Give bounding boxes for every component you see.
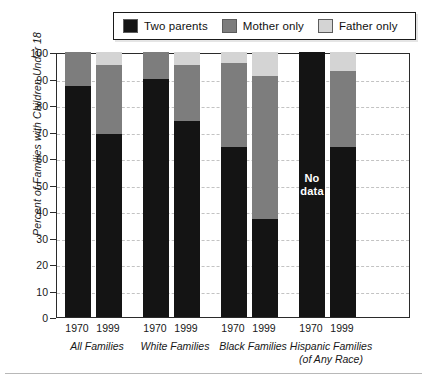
y-tick-mark: [50, 133, 56, 134]
x-tick-year: 1999: [96, 322, 119, 334]
bar-segment: [330, 71, 356, 148]
y-tick-mark: [50, 265, 56, 266]
bottom-divider: [5, 373, 422, 374]
bar-segment: [221, 63, 247, 148]
y-tick-mark: [50, 53, 56, 54]
x-tick-year: 1999: [252, 322, 275, 334]
bar-segment: [330, 52, 356, 71]
bar-segment: [174, 65, 200, 121]
x-tick-year: 1970: [65, 322, 88, 334]
bar-segment: [65, 52, 91, 86]
bar-segment: [252, 76, 278, 219]
legend-swatch-two-parents: [123, 19, 138, 33]
y-tick-mark: [50, 212, 56, 213]
bar-segment: [174, 52, 200, 65]
bar-segment: [221, 52, 247, 63]
x-group-label: Black Families: [219, 340, 287, 353]
bar-segment: [96, 134, 122, 317]
legend-label: Two parents: [144, 20, 208, 32]
bar-segment: [299, 52, 325, 317]
y-tick-mark: [50, 159, 56, 160]
y-tick-mark: [50, 318, 56, 319]
x-tick-year: 1970: [299, 322, 322, 334]
x-tick-year: 1999: [174, 322, 197, 334]
stacked-bar: [143, 52, 169, 317]
stacked-bar: [65, 52, 91, 317]
legend-entry: Mother only: [222, 19, 304, 33]
y-tick-mark: [50, 292, 56, 293]
chart-figure: Two parentsMother onlyFather only Nodata…: [0, 0, 427, 380]
plot-area: Nodata: [56, 53, 410, 318]
stacked-bar: [330, 52, 356, 317]
stacked-bar: [174, 52, 200, 317]
bar-segment: [96, 65, 122, 134]
chart-legend: Two parentsMother onlyFather only: [113, 12, 416, 40]
x-group-label: All Families: [70, 340, 124, 353]
legend-label: Mother only: [243, 20, 304, 32]
legend-label: Father only: [339, 20, 398, 32]
bar-segment: [252, 52, 278, 76]
x-tick-year: 1970: [221, 322, 244, 334]
legend-swatch-father-only: [318, 19, 333, 33]
y-axis-title: Percent of Families with Children Under …: [31, 9, 43, 259]
y-tick-label: 0: [22, 312, 48, 324]
stacked-bar: [96, 52, 122, 317]
bar-series-container: Nodata: [57, 54, 409, 317]
bar-segment: [143, 52, 169, 79]
bar-segment: [330, 147, 356, 317]
legend-entry: Two parents: [123, 19, 208, 33]
bar-segment: [174, 121, 200, 317]
y-tick-label: 20: [22, 259, 48, 271]
bar-segment: [221, 147, 247, 317]
stacked-bar: [252, 52, 278, 317]
y-tick-label: 10: [22, 286, 48, 298]
stacked-bar: Nodata: [299, 52, 325, 317]
y-tick-mark: [50, 186, 56, 187]
legend-entry: Father only: [318, 19, 398, 33]
y-tick-mark: [50, 80, 56, 81]
x-tick-year: 1999: [330, 322, 353, 334]
stacked-bar: [221, 52, 247, 317]
x-group-label: White Families: [141, 340, 210, 353]
x-group-label: Hispanic Families(of Any Race): [290, 340, 372, 366]
y-tick-mark: [50, 106, 56, 107]
x-tick-year: 1970: [143, 322, 166, 334]
bar-segment: [143, 79, 169, 318]
bar-segment: [252, 219, 278, 317]
y-tick-mark: [50, 239, 56, 240]
bar-segment: [65, 86, 91, 317]
bar-segment: [96, 52, 122, 65]
legend-swatch-mother-only: [222, 19, 237, 33]
